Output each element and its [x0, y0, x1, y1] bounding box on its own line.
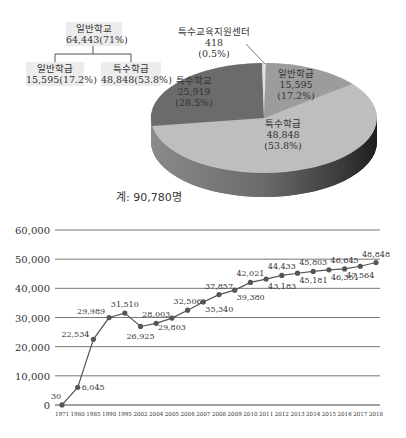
data-label: 39,380: [237, 293, 265, 302]
data-point: [185, 308, 190, 313]
line-chart: 010,00020,00030,00040,00050,00060,000197…: [0, 0, 406, 438]
x-tick-label: 2013: [290, 411, 305, 417]
data-point: [201, 299, 206, 304]
data-label: 45,181: [300, 276, 328, 285]
data-point: [264, 276, 269, 281]
data-label: 26,925: [127, 332, 155, 341]
data-point: [232, 288, 237, 293]
data-point: [59, 402, 64, 407]
data-label: 37,857: [205, 282, 233, 291]
x-tick-label: 2004: [149, 411, 164, 417]
data-label: 29,803: [158, 323, 186, 332]
x-tick-label: 2002: [133, 411, 148, 417]
data-label: 46,645: [331, 256, 359, 265]
data-point: [91, 337, 96, 342]
y-tick-label: 20,000: [15, 342, 50, 353]
data-label: 44,433: [268, 262, 296, 271]
data-point: [326, 267, 331, 272]
data-label: 28,003: [142, 310, 170, 319]
data-point: [311, 269, 316, 274]
data-point: [248, 280, 253, 285]
y-tick-label: 60,000: [15, 225, 50, 236]
data-label: 31,510: [111, 300, 139, 309]
x-tick-label: 1980: [71, 411, 86, 417]
data-point: [373, 260, 378, 265]
x-tick-label: 2014: [306, 411, 321, 417]
y-tick-label: 40,000: [15, 283, 50, 294]
x-tick-label: 2009: [228, 411, 243, 417]
data-point: [122, 310, 127, 315]
data-label: 48,848: [362, 250, 390, 259]
y-tick-label: 10,000: [15, 371, 50, 382]
x-tick-label: 2011: [259, 411, 273, 417]
x-tick-label: 2016: [337, 411, 352, 417]
data-label: 32,506: [174, 297, 202, 306]
data-label: 30: [51, 392, 61, 401]
y-tick-label: 30,000: [15, 313, 50, 324]
x-tick-label: 2015: [322, 411, 337, 417]
data-point: [216, 292, 221, 297]
x-tick-label: 2018: [369, 411, 384, 417]
data-point: [295, 271, 300, 276]
x-tick-label: 2006: [180, 411, 195, 417]
y-tick-label: 50,000: [15, 254, 50, 265]
data-label: 35,340: [205, 305, 233, 314]
y-tick-label: 0: [44, 400, 50, 411]
data-label: 22,534: [61, 330, 89, 339]
data-label: 42,021: [236, 269, 264, 278]
data-point: [107, 315, 112, 320]
data-label: 6,045: [82, 383, 105, 392]
x-tick-label: 2012: [275, 411, 290, 417]
data-label: 47,564: [346, 271, 374, 280]
data-point: [279, 273, 284, 278]
data-label: 45,803: [299, 258, 327, 267]
x-tick-label: 1990: [102, 411, 117, 417]
data-point: [75, 385, 80, 390]
x-tick-label: 2017: [353, 411, 368, 417]
data-point: [169, 315, 174, 320]
data-label: 29,989: [77, 307, 105, 316]
data-point: [138, 324, 143, 329]
x-tick-label: 2010: [243, 411, 258, 417]
data-point: [358, 264, 363, 269]
x-tick-label: 2008: [212, 411, 227, 417]
x-tick-label: 1971: [55, 411, 69, 417]
x-tick-label: 1985: [86, 411, 101, 417]
data-label: 43,183: [268, 282, 296, 291]
x-tick-label: 1995: [118, 411, 133, 417]
x-tick-label: 2005: [165, 411, 180, 417]
x-tick-label: 2007: [196, 411, 211, 417]
